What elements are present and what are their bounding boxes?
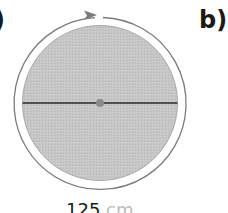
- rotating-disc-diagram: [0, 0, 228, 213]
- diameter-unit: cm: [106, 199, 133, 213]
- diameter-caption: 125 cm: [66, 199, 134, 213]
- diameter-value: 125: [66, 199, 100, 213]
- center-dot: [96, 99, 104, 107]
